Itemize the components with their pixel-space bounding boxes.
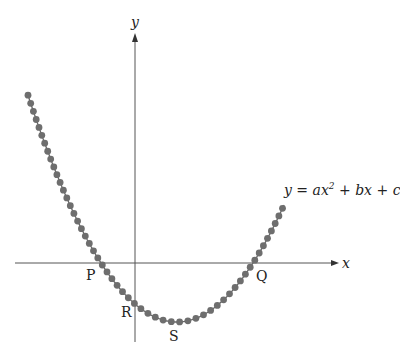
curve-dot: [78, 225, 85, 232]
curve-dot: [54, 171, 61, 178]
curve-dot: [264, 235, 271, 242]
curve-dot: [57, 179, 64, 186]
curve-dot: [63, 195, 70, 202]
curve-equation: y = ax2 + bx + c: [283, 181, 400, 198]
curve-dot: [60, 187, 67, 194]
curve-dot: [160, 317, 167, 324]
curve-dot: [256, 250, 263, 257]
point-label-s: S: [169, 328, 179, 344]
curve-dot: [38, 132, 45, 139]
curve-dot: [50, 164, 57, 171]
curve-dot: [152, 314, 159, 321]
curve-dot: [185, 317, 192, 324]
curve-dot: [44, 148, 51, 155]
parabola-diagram: x y y = ax2 + bx + c P Q R S: [0, 0, 400, 363]
curve-dot: [272, 220, 279, 227]
curve-dot: [36, 124, 43, 131]
curve-dot: [214, 302, 221, 309]
curve-dot: [168, 318, 175, 325]
point-label-q: Q: [256, 268, 267, 284]
curve-dot: [104, 269, 111, 276]
curve-dot: [226, 290, 233, 297]
curve-dot: [25, 92, 32, 99]
curve-dot: [71, 210, 78, 217]
curve-dot: [119, 288, 126, 295]
curve-dot: [237, 278, 244, 285]
curve-dot: [279, 205, 286, 212]
curve-dot: [99, 262, 106, 269]
curve-dot: [30, 108, 37, 115]
curve-dot: [207, 307, 214, 314]
parabola-curve: [25, 92, 286, 326]
y-axis-arrow-icon: [132, 33, 138, 42]
curve-dot: [251, 257, 258, 264]
y-axis-label: y: [130, 14, 140, 30]
x-axis-label: x: [342, 255, 350, 271]
curve-dot: [232, 284, 239, 291]
curve-dot: [125, 294, 132, 301]
curve-dot: [276, 213, 283, 220]
curve-dot: [268, 228, 275, 235]
curve-dot: [67, 202, 74, 209]
curve-dot: [47, 156, 54, 163]
point-label-p: P: [86, 267, 95, 283]
curve-dot: [193, 315, 200, 322]
curve-dot: [41, 140, 48, 147]
curve-dot: [82, 233, 89, 240]
curve-dot: [138, 305, 145, 312]
curve-dot: [242, 271, 249, 278]
curve-dot: [109, 275, 116, 282]
point-label-r: R: [121, 304, 132, 320]
curve-dot: [220, 296, 227, 303]
curve-dot: [260, 242, 267, 249]
curve-dot: [145, 310, 152, 317]
x-axis-arrow-icon: [331, 260, 339, 266]
curve-dot: [27, 100, 34, 107]
curve-dot: [247, 264, 254, 271]
curve-dot: [94, 255, 101, 262]
curve-dot: [200, 311, 207, 318]
curve-dot: [114, 282, 121, 289]
curve-dot: [33, 116, 40, 123]
curve-dot: [90, 247, 97, 254]
curve-dot: [74, 218, 81, 225]
curve-dot: [131, 300, 138, 307]
curve-dot: [176, 319, 183, 326]
curve-dot: [86, 240, 93, 247]
